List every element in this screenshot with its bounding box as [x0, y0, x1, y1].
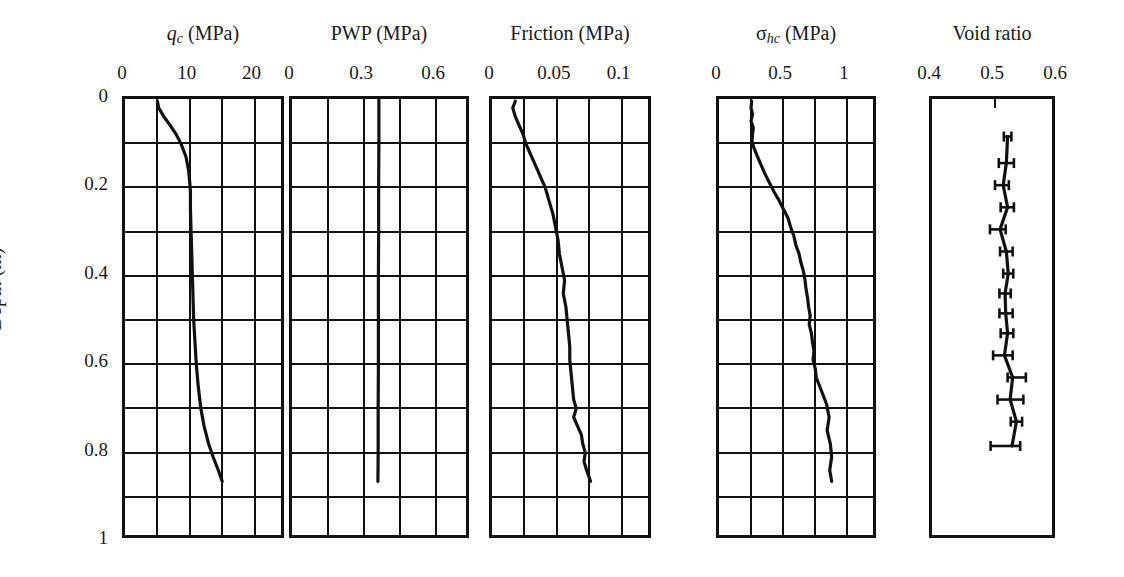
- x-tick-label: 0.4: [917, 62, 941, 84]
- depth-tick-label: 1: [99, 527, 109, 549]
- panel-title-sigma_hc: σhc (MPa): [716, 22, 876, 47]
- x-tick-label: 0: [711, 62, 721, 84]
- panel-title-qc: qc (MPa): [122, 22, 284, 47]
- x-tick-label: 0.5: [768, 62, 792, 84]
- plot-area-pwp: [289, 96, 469, 538]
- data-layer-sigma_hc: [719, 99, 879, 541]
- data-curve: [378, 99, 379, 481]
- x-tick-label: 20: [242, 62, 261, 84]
- x-tick-label: 1: [839, 62, 849, 84]
- panel-void_ratio: Void ratio0.40.50.6: [929, 0, 1055, 577]
- panel-title-friction: Friction (MPa): [489, 22, 651, 45]
- plot-area-qc: [122, 96, 284, 538]
- x-tick-label: 0: [284, 62, 294, 84]
- x-ticks-sigma_hc: 00.51: [716, 62, 876, 86]
- depth-axis: Depth (m) 00.20.40.60.81: [0, 0, 118, 577]
- x-ticks-friction: 00.050.1: [489, 62, 651, 86]
- depth-axis-title: Depth (m): [0, 248, 6, 331]
- x-tick-label: 0.1: [607, 62, 631, 84]
- x-tick-label: 0.5: [980, 62, 1004, 84]
- plot-area-sigma_hc: [716, 96, 876, 538]
- x-ticks-pwp: 00.30.6: [289, 62, 469, 86]
- x-tick-label: 10: [177, 62, 196, 84]
- panel-friction: Friction (MPa)00.050.1: [489, 0, 651, 577]
- x-tick-label: 0: [117, 62, 127, 84]
- depth-tick-label: 0.8: [84, 439, 108, 461]
- error-bar: [995, 180, 1009, 190]
- depth-tick-label: 0: [99, 85, 109, 107]
- x-tick-label: 0.6: [1043, 62, 1067, 84]
- depth-profile-figure: Depth (m) 00.20.40.60.81 qc (MPa)01020PW…: [0, 0, 1124, 577]
- data-curve: [513, 101, 591, 481]
- x-tick-label: 0: [484, 62, 494, 84]
- data-curve: [751, 101, 832, 481]
- error-bar: [990, 224, 1006, 234]
- data-curve: [157, 101, 222, 481]
- plot-area-void_ratio: [929, 96, 1055, 538]
- plot-area-friction: [489, 96, 651, 538]
- depth-tick-label: 0.2: [84, 173, 108, 195]
- panel-title-pwp: PWP (MPa): [289, 22, 469, 45]
- data-layer-pwp: [292, 99, 472, 541]
- panel-pwp: PWP (MPa)00.30.6: [289, 0, 469, 577]
- data-layer-void_ratio: [932, 99, 1058, 541]
- x-tick-label: 0.6: [421, 62, 445, 84]
- x-tick-label: 0.05: [537, 62, 570, 84]
- x-ticks-void_ratio: 0.40.50.6: [929, 62, 1055, 86]
- panel-title-void_ratio: Void ratio: [929, 22, 1055, 45]
- panel-qc: qc (MPa)01020: [122, 0, 284, 577]
- error-bar: [991, 441, 1021, 451]
- error-bar: [993, 350, 1013, 360]
- depth-tick-label: 0.6: [84, 350, 108, 372]
- x-tick-label: 0.3: [349, 62, 373, 84]
- data-layer-qc: [125, 99, 287, 541]
- x-ticks-qc: 01020: [122, 62, 284, 86]
- depth-tick-label: 0.4: [84, 262, 108, 284]
- data-layer-friction: [492, 99, 654, 541]
- panel-sigma_hc: σhc (MPa)00.51: [716, 0, 876, 577]
